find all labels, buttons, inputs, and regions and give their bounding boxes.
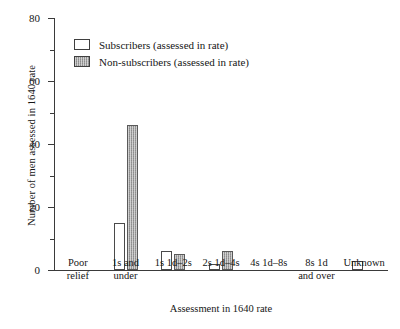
legend-swatch-subscribers-icon bbox=[74, 39, 90, 50]
bar-non-subscribers bbox=[127, 125, 138, 270]
x-tick-label: Poor relief bbox=[67, 256, 89, 282]
y-tick-label: 60 bbox=[29, 75, 40, 87]
x-axis-line bbox=[54, 270, 388, 271]
x-tick-label: 1s 1d–2s bbox=[155, 256, 192, 269]
x-tick-label: 8s 1d and over bbox=[298, 256, 334, 282]
y-tick-label: 0 bbox=[35, 264, 41, 276]
x-tick-label: Unknown bbox=[343, 256, 384, 269]
x-tick-label: 4s 1d–8s bbox=[250, 256, 287, 269]
legend-swatch-non-subscribers-icon bbox=[74, 56, 90, 67]
legend-label-subscribers: Subscribers (assessed in rate) bbox=[99, 39, 228, 51]
y-tick-label: 20 bbox=[29, 201, 40, 213]
y-tick-label: 40 bbox=[29, 138, 40, 150]
bar-chart-figure: Number of men assessed in 1640 rate 0204… bbox=[0, 0, 400, 329]
legend-item-non-subscribers: Non-subscribers (assessed in rate) bbox=[74, 53, 249, 70]
y-tick-major: 0 bbox=[48, 270, 54, 271]
x-axis-title: Assessment in 1640 rate bbox=[54, 303, 388, 314]
x-tick-label: 1s and under bbox=[112, 256, 139, 282]
x-tick-label: 2s 1d–4s bbox=[202, 256, 239, 269]
y-tick-label: 80 bbox=[29, 12, 40, 24]
legend-label-non-subscribers: Non-subscribers (assessed in rate) bbox=[99, 56, 249, 68]
legend-item-subscribers: Subscribers (assessed in rate) bbox=[74, 36, 249, 53]
chart-legend: Subscribers (assessed in rate) Non-subsc… bbox=[74, 36, 249, 70]
